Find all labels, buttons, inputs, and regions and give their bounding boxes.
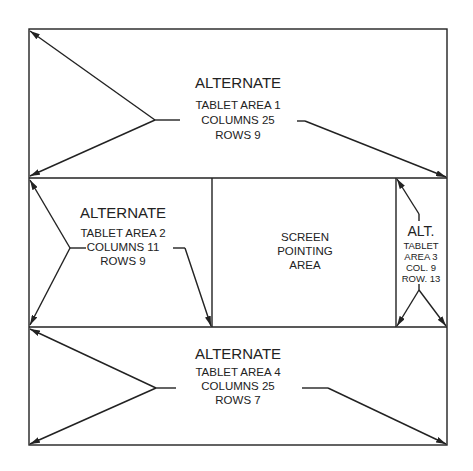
area4-line2: COLUMNS 25 [201,380,275,392]
tablet-layout-diagram: ALTERNATE TABLET AREA 1 COLUMNS 25 ROWS … [0,0,473,471]
area4-title: ALTERNATE [195,345,281,362]
area1-line1: TABLET AREA 1 [195,99,280,111]
area4-line3: ROWS 7 [215,394,260,406]
area4-right-arrow-icon [302,388,446,444]
area3-up-arrow-icon [397,179,419,221]
area1-line3: ROWS 9 [215,129,260,141]
area3-down-arrows-icon [397,284,446,326]
area4-line1: TABLET AREA 4 [195,366,281,378]
area2-line2: COLUMNS 11 [87,241,160,253]
tablet-area-2: ALTERNATE TABLET AREA 2 COLUMNS 11 ROWS … [30,180,211,326]
screen-line2: POINTING [277,245,333,257]
area4-left-arrows-icon [30,329,176,444]
area3-line2: AREA 3 [404,251,437,262]
area1-line2: COLUMNS 25 [201,114,275,126]
area1-right-arrow-icon [297,121,446,177]
area3-line3: COL. 9 [406,262,436,273]
tablet-area-1: ALTERNATE TABLET AREA 1 COLUMNS 25 ROWS … [30,31,446,177]
area2-line1: TABLET AREA 2 [80,227,165,239]
screen-line1: SCREEN [281,231,329,243]
area1-left-arrows-icon [30,31,180,176]
area2-left-arrows-icon [30,180,86,325]
area2-right-arrow-icon [173,248,211,326]
area3-title: ALT. [408,223,435,239]
tablet-area-4: ALTERNATE TABLET AREA 4 COLUMNS 25 ROWS … [30,329,446,444]
screen-line3: AREA [289,259,321,271]
area2-line3: ROWS 9 [100,255,145,267]
area3-line4: ROW. 13 [402,273,441,284]
area1-title: ALTERNATE [195,74,281,91]
screen-pointing-area: SCREEN POINTING AREA [277,231,333,271]
tablet-area-3: ALT. TABLET AREA 3 COL. 9 ROW. 13 [397,179,446,326]
area2-title: ALTERNATE [80,204,166,221]
area3-line1: TABLET [403,240,438,251]
